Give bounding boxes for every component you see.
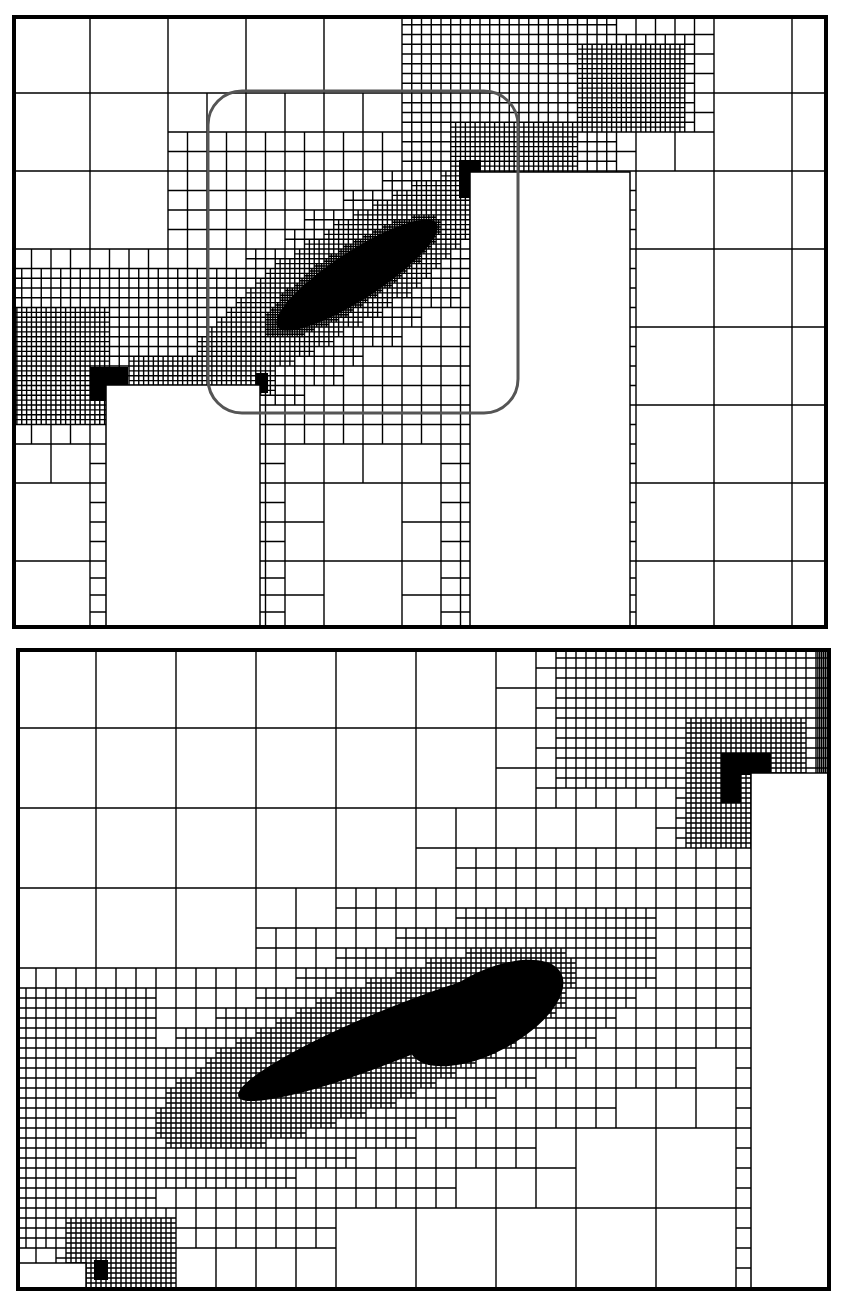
dense-refinement-region [94, 1260, 108, 1280]
dense-refinement-region [721, 753, 771, 775]
mesh-panel-top [12, 15, 828, 629]
dense-refinement-region [459, 160, 470, 198]
obstacle-block [470, 172, 630, 629]
quadtree-mesh-bottom [16, 648, 831, 1291]
mesh-panel-bottom-zoomed [16, 648, 831, 1291]
obstacle-block [106, 385, 260, 629]
obstacle-block [16, 1263, 86, 1291]
quadtree-mesh-top [12, 15, 828, 629]
obstacle-block [751, 773, 831, 1291]
mesh-cells [16, 648, 831, 1291]
dense-refinement-region [90, 367, 106, 401]
panel-border [18, 650, 829, 1289]
